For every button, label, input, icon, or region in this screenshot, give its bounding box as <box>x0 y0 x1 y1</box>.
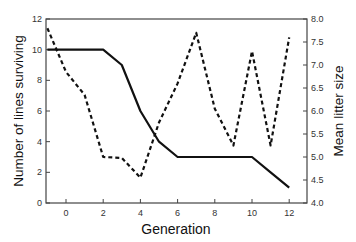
x-tick-label: 12 <box>284 208 294 218</box>
y2-tick-label: 4.0 <box>311 198 324 208</box>
y2-tick-label: 7.0 <box>311 60 324 70</box>
y-axis-left-label: Number of lines surviving <box>11 35 26 187</box>
x-tick-label: 10 <box>247 208 257 218</box>
y2-tick-label: 8.0 <box>311 14 324 24</box>
y-tick-label: 0 <box>37 198 42 208</box>
x-axis-label: Generation <box>141 221 210 237</box>
y-axis-left: 024681012 <box>32 14 50 208</box>
x-axis: 024681012 <box>63 199 294 218</box>
chart: 024681012 024681012 4.04.55.05.56.06.57.… <box>0 0 356 242</box>
y2-tick-label: 5.5 <box>311 129 324 139</box>
y2-tick-label: 6.0 <box>311 106 324 116</box>
y2-tick-label: 4.5 <box>311 175 324 185</box>
y-tick-label: 6 <box>37 106 42 116</box>
x-tick-label: 6 <box>175 208 180 218</box>
y-tick-label: 4 <box>37 137 42 147</box>
y-tick-label: 10 <box>32 45 42 55</box>
y-axis-right-label: Mean litter size <box>331 66 346 157</box>
x-tick-label: 0 <box>63 208 68 218</box>
y2-tick-label: 6.5 <box>311 83 324 93</box>
y-tick-label: 8 <box>37 75 42 85</box>
x-tick-label: 4 <box>138 208 143 218</box>
y-tick-label: 12 <box>32 14 42 24</box>
x-tick-label: 8 <box>212 208 217 218</box>
y2-tick-label: 5.0 <box>311 152 324 162</box>
y-axis-right: 4.04.55.05.56.06.57.07.58.0 <box>303 14 324 208</box>
x-tick-label: 2 <box>101 208 106 218</box>
y2-tick-label: 7.5 <box>311 37 324 47</box>
series-lines-surviving <box>47 50 289 188</box>
plot-frame <box>46 19 307 203</box>
y-tick-label: 2 <box>37 167 42 177</box>
